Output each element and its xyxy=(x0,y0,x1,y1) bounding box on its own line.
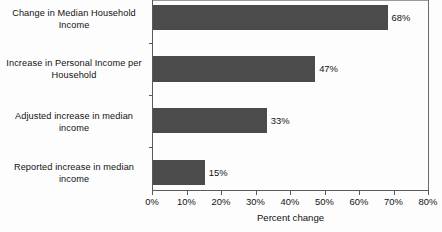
x-axis-tick-label-3: 30% xyxy=(239,196,273,207)
x-axis-tick-label-2: 20% xyxy=(204,196,238,207)
x-axis-tick-7 xyxy=(394,191,395,195)
x-axis-tick-5 xyxy=(325,191,326,195)
x-axis-tick-label-4: 40% xyxy=(273,196,307,207)
x-axis-tick-2 xyxy=(221,191,222,195)
x-axis-tick-label-8: 80% xyxy=(411,196,442,207)
x-axis-tick-label-6: 60% xyxy=(342,196,376,207)
bar-1 xyxy=(153,56,315,82)
x-axis-tick-0 xyxy=(152,191,153,195)
category-label-3: Reported increase in median income xyxy=(0,162,148,185)
plot-border-right xyxy=(428,0,429,191)
x-axis-title: Percent change xyxy=(152,212,429,224)
plot-area: 68% 47% 33% 15% 0%10%20%30%40%50%60%70%8… xyxy=(152,0,429,191)
y-axis-tick-2 xyxy=(149,147,153,148)
x-axis-tick-3 xyxy=(256,191,257,195)
plot-border-top xyxy=(152,0,429,1)
bar-value-label-2: 33% xyxy=(271,116,290,126)
bar-value-label-3: 15% xyxy=(209,168,228,178)
bar-value-label-0: 68% xyxy=(392,13,411,23)
x-axis-tick-label-1: 10% xyxy=(170,196,204,207)
bar-3 xyxy=(153,160,205,185)
x-axis-tick-8 xyxy=(428,191,429,195)
x-axis-tick-1 xyxy=(187,191,188,195)
bar-chart: Change in Median Household Income Increa… xyxy=(0,0,442,232)
x-axis-tick-label-0: 0% xyxy=(135,196,169,207)
y-axis-tick-0 xyxy=(149,43,153,44)
y-axis-tick-1 xyxy=(149,95,153,96)
category-label-0: Change in Median Household Income xyxy=(0,8,148,31)
x-axis-tick-6 xyxy=(359,191,360,195)
x-axis-tick-label-7: 70% xyxy=(377,196,411,207)
bar-2 xyxy=(153,108,267,133)
x-axis-tick-4 xyxy=(290,191,291,195)
category-label-2: Adjusted increase in median income xyxy=(0,111,148,134)
category-label-1: Increase in Personal Income per Househol… xyxy=(0,58,148,81)
bar-value-label-1: 47% xyxy=(319,64,338,74)
bar-0 xyxy=(153,5,388,30)
x-axis-tick-label-5: 50% xyxy=(308,196,342,207)
